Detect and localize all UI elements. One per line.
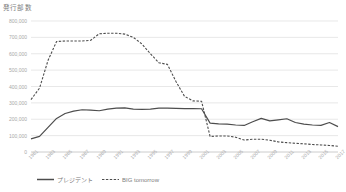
- legend-solid-line-icon: [37, 177, 54, 182]
- series-line: [31, 108, 338, 139]
- legend-label: プレジデント: [57, 175, 93, 184]
- chart-legend: プレジデントBIG tomorrow: [37, 175, 159, 184]
- legend-item[interactable]: BIG tomorrow: [102, 177, 159, 183]
- legend-dashed-line-icon: [102, 177, 119, 182]
- legend-label: BIG tomorrow: [122, 177, 159, 183]
- legend-item[interactable]: プレジデント: [37, 175, 93, 184]
- gridlines: [31, 21, 338, 152]
- series-line: [31, 33, 338, 146]
- data-series-group: [31, 33, 338, 146]
